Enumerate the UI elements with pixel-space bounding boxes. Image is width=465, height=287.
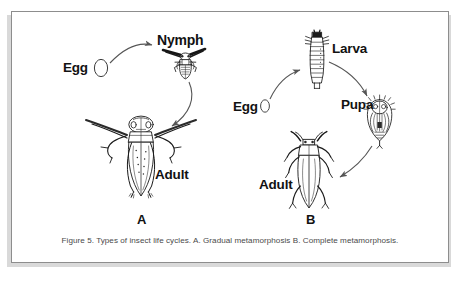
panel-letter-a: A xyxy=(137,212,146,227)
stage-label-nymph: Nymph xyxy=(157,32,203,48)
stage-label-adult-b: Adult xyxy=(259,177,293,192)
figure-caption: Figure 5. Types of insect life cycles. A… xyxy=(11,236,449,245)
figure-plate-border xyxy=(11,11,449,263)
stage-label-adult-a: Adult xyxy=(155,167,189,182)
stage-label-larva: Larva xyxy=(332,41,367,56)
stage-label-egg-a: Egg xyxy=(63,60,88,75)
stage-label-pupa: Pupa xyxy=(341,97,373,112)
panel-letter-b: B xyxy=(306,212,315,227)
insect-life-cycle-figure: Egg Nymph Adult A Egg Larva Pupa Adult B… xyxy=(0,0,465,287)
stage-label-egg-b: Egg xyxy=(233,99,258,114)
